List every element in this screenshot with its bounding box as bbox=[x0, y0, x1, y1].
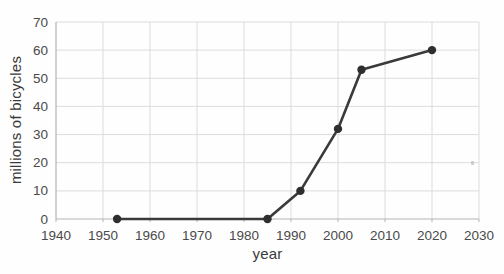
y-tick-label: 40 bbox=[33, 99, 48, 114]
x-tick-label: 1990 bbox=[276, 228, 306, 243]
x-tick-label: 2030 bbox=[464, 228, 494, 243]
y-tick-label: 50 bbox=[33, 71, 48, 86]
x-axis-title: year bbox=[56, 245, 479, 262]
line-chart-figure: 0102030405060701940195019601970198019902… bbox=[0, 0, 504, 274]
y-tick-label: 10 bbox=[33, 183, 48, 198]
y-tick-label: 0 bbox=[40, 212, 48, 227]
x-tick-label: 2000 bbox=[323, 228, 353, 243]
data-point bbox=[113, 215, 121, 223]
y-tick-label: 20 bbox=[33, 155, 48, 170]
chart-canvas: 0102030405060701940195019601970198019902… bbox=[0, 0, 504, 274]
y-axis-title: millions of bicycles bbox=[7, 56, 24, 184]
x-tick-label: 2010 bbox=[370, 228, 400, 243]
y-tick-label: 30 bbox=[33, 127, 48, 142]
data-point bbox=[334, 125, 342, 133]
x-tick-label: 1980 bbox=[229, 228, 259, 243]
data-point bbox=[296, 187, 304, 195]
x-tick-label: 1960 bbox=[135, 228, 165, 243]
scan-speck-artifact bbox=[471, 161, 474, 165]
y-tick-label: 60 bbox=[33, 43, 48, 58]
x-tick-label: 1940 bbox=[41, 228, 71, 243]
x-tick-label: 2020 bbox=[417, 228, 447, 243]
data-point bbox=[263, 215, 271, 223]
x-tick-label: 1950 bbox=[88, 228, 118, 243]
data-point bbox=[357, 66, 365, 74]
data-point bbox=[428, 46, 436, 54]
y-tick-label: 70 bbox=[33, 15, 48, 30]
x-tick-label: 1970 bbox=[182, 228, 212, 243]
